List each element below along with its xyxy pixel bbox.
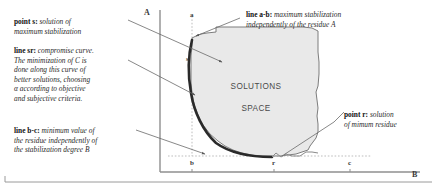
annotation-line-bc-line-0: minimum value of	[42, 126, 95, 135]
y-axis-label: A	[144, 8, 150, 17]
annotation-line-sr-line-2: done along this curve of	[14, 65, 85, 74]
point-label-s: s	[186, 55, 189, 63]
annotation-point-s-lead: point s:	[14, 17, 38, 26]
annotation-point-s-line-0: solution of	[39, 17, 70, 26]
annotation-point-r: point r: solution of mimum residue	[344, 110, 436, 129]
point-label-r: r	[272, 159, 275, 167]
annotation-line-sr-line-3: better solutions, choosing	[14, 75, 90, 84]
annotation-point-r-line-0: solution	[370, 110, 394, 119]
annotation-point-s: point s: solution of maximum stabilizati…	[14, 17, 132, 36]
annotation-line-bc-line-1: the residue independently of	[14, 136, 97, 145]
point-label-c: c	[348, 159, 351, 167]
solutions-space-label: SOLUTIONS SPACE	[216, 70, 296, 114]
leader-point-r-stub	[334, 112, 344, 122]
annotation-line-sr-lead: line sr:	[14, 46, 36, 55]
annotation-line-sr-line-4: α according to objective	[14, 84, 86, 93]
annotation-line-bc-line-2: the stabilization degree B	[14, 145, 89, 154]
annotation-line-bc: line b-c: minimum value of the residue i…	[14, 126, 142, 155]
solutions-space-label-line1: SOLUTIONS	[231, 82, 282, 91]
annotation-line-ab: line a-b: maximum stabilization independ…	[246, 10, 432, 29]
annotation-line-ab-line-1: independently of the residue A	[246, 20, 336, 29]
annotation-line-sr-line-5: and subjective criteria.	[14, 94, 82, 103]
point-label-a: a	[190, 11, 194, 19]
annotation-line-bc-lead: line b-c:	[14, 126, 40, 135]
annotation-line-sr-line-1: The minimization of C is	[14, 56, 87, 65]
solutions-space-label-line2: SPACE	[241, 104, 270, 113]
annotation-point-r-lead: point r:	[344, 110, 368, 119]
annotation-line-sr: line sr: compromise curve. The minimizat…	[14, 46, 136, 104]
figure-canvas: A B a s b r c SOLUTIONS SPACE point s: s…	[0, 0, 437, 189]
annotation-line-ab-lead: line a-b:	[246, 10, 272, 19]
annotation-line-sr-line-0: compromise curve.	[38, 46, 94, 55]
point-label-b: b	[190, 159, 194, 167]
annotation-point-s-line-1: maximum stabilization	[14, 27, 81, 36]
leader-line-bc	[136, 130, 205, 154]
x-axis-label: B	[412, 170, 417, 179]
leader-line-sr	[128, 60, 195, 95]
annotation-line-ab-line-0: maximum stabilization	[274, 10, 341, 19]
annotation-point-r-line-1: of mimum residue	[344, 120, 397, 129]
